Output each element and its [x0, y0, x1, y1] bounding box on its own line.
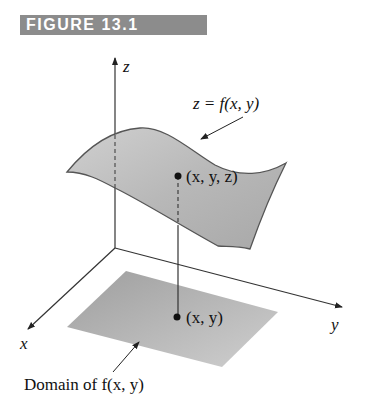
domain-point: [174, 314, 181, 321]
domain-leader-arrow: [113, 342, 139, 372]
domain-caption: Domain of f(x, y): [24, 375, 144, 394]
surface-point: [175, 173, 182, 180]
domain-region: [67, 271, 278, 367]
y-axis-label: y: [329, 315, 339, 334]
surface-leader-arrow: [201, 117, 243, 139]
z-axis-label: z: [122, 57, 130, 76]
domain-point-label: (x, y): [186, 308, 223, 327]
surface-point-label: (x, y, z): [186, 167, 238, 186]
function-surface: [67, 128, 286, 249]
x-axis-label: x: [19, 334, 28, 353]
surface-equation-label: z = f(x, y): [192, 94, 260, 113]
function-surface-diagram: z x y z = f(x, y) (x, y, z) (x, y) Domai…: [0, 0, 368, 414]
